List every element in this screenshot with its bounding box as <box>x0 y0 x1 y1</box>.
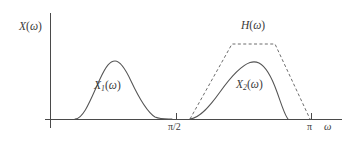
y-axis-label-base: X <box>19 20 26 32</box>
x-tick-label-half-pi: π/2 <box>168 122 181 132</box>
y-axis-label: X(ω) <box>19 21 42 33</box>
x-axis-label: ω <box>324 122 331 133</box>
curve-x1 <box>75 61 172 119</box>
curve-label-x1: X1(ω) <box>94 80 121 93</box>
curve-label-x2-base: X <box>236 78 243 90</box>
curve-label-h: H(ω) <box>241 20 265 32</box>
curve-label-x2: X2(ω) <box>236 79 263 92</box>
curve-label-x1-base: X <box>94 79 101 91</box>
x-tick-label-pi: π <box>307 122 312 132</box>
spectrum-figure: X(ω) X1(ω) X2(ω) H(ω) π/2 π ω <box>0 0 342 143</box>
